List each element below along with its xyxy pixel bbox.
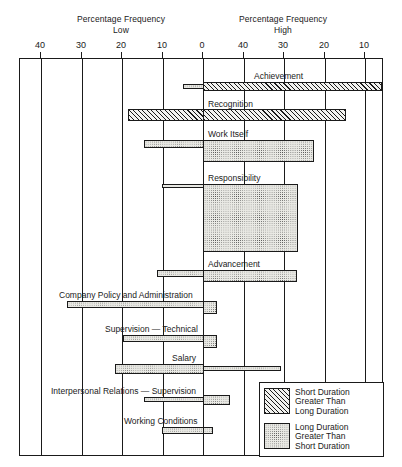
tick-label-0: 40 bbox=[27, 40, 53, 50]
bar-label-8: Interpersonal Relations — Supervision bbox=[51, 386, 196, 396]
axis-title-low-line1: Percentage Frequency bbox=[51, 14, 191, 25]
bar-low-9 bbox=[162, 427, 204, 434]
bar-label-4: Advancement bbox=[208, 259, 260, 269]
tick-label-2: 20 bbox=[108, 40, 134, 50]
tick-label-5: 40 bbox=[230, 40, 256, 50]
bar-high-3 bbox=[203, 184, 298, 252]
tick-label-7: 20 bbox=[311, 40, 337, 50]
gridline-0 bbox=[41, 59, 42, 455]
bar-label-0: Achievement bbox=[254, 71, 303, 81]
bar-high-8 bbox=[203, 395, 230, 405]
bar-label-7: Salary bbox=[172, 353, 196, 363]
tick-label-8: 10 bbox=[351, 40, 377, 50]
bar-high-1 bbox=[203, 109, 346, 121]
axis-title-high-line1: Percentage Frequency bbox=[213, 14, 353, 25]
bar-high-9 bbox=[203, 427, 213, 434]
bar-low-6 bbox=[123, 335, 204, 342]
tick-label-1: 30 bbox=[68, 40, 94, 50]
bar-low-1 bbox=[128, 109, 204, 121]
bar-label-9: Working Conditions bbox=[124, 416, 198, 426]
bar-high-2 bbox=[203, 140, 314, 162]
tick-label-6: 30 bbox=[270, 40, 296, 50]
legend-label-1: Long DurationGreater ThanShort Duration bbox=[295, 423, 350, 451]
legend-label-0-line3: Long Duration bbox=[295, 407, 350, 416]
bar-label-6: Supervision — Technical bbox=[105, 324, 198, 334]
bar-low-2 bbox=[144, 140, 204, 148]
bar-low-5 bbox=[67, 301, 204, 308]
legend-swatch-dots bbox=[264, 423, 290, 449]
tick-label-3: 10 bbox=[149, 40, 175, 50]
bar-low-7 bbox=[115, 364, 204, 374]
axis-title-low: Percentage Frequency Low bbox=[51, 14, 191, 36]
legend-label-0: Short DurationGreater ThanLong Duration bbox=[295, 388, 350, 416]
bar-label-5: Company Policy and Administration bbox=[59, 290, 193, 300]
bar-low-0 bbox=[183, 84, 204, 89]
legend-label-1-line3: Short Duration bbox=[295, 442, 350, 451]
chart-legend: Short DurationGreater ThanLong DurationL… bbox=[259, 382, 384, 457]
bar-low-4 bbox=[157, 270, 204, 277]
bar-high-0 bbox=[203, 82, 382, 91]
bar-label-1: Recognition bbox=[208, 99, 253, 109]
axis-title-low-line2: Low bbox=[51, 25, 191, 36]
legend-swatch-hatch bbox=[264, 388, 290, 414]
bar-label-3: Responsibility bbox=[208, 173, 260, 183]
legend-entry-0: Short DurationGreater ThanLong Duration bbox=[264, 388, 350, 416]
legend-entry-1: Long DurationGreater ThanShort Duration bbox=[264, 423, 350, 451]
bar-low-3 bbox=[162, 184, 204, 188]
bar-low-8 bbox=[144, 397, 204, 402]
bar-high-7 bbox=[203, 366, 281, 371]
bar-high-6 bbox=[203, 335, 217, 348]
tick-label-4: 0 bbox=[189, 40, 215, 50]
axis-title-high: Percentage Frequency High bbox=[213, 14, 353, 36]
bar-high-5 bbox=[203, 301, 217, 314]
chart-plot-area: AchievementRecognitionWork ItselfRespons… bbox=[19, 58, 383, 456]
bar-high-4 bbox=[203, 270, 297, 282]
axis-title-high-line2: High bbox=[213, 25, 353, 36]
bar-label-2: Work Itself bbox=[208, 129, 248, 139]
